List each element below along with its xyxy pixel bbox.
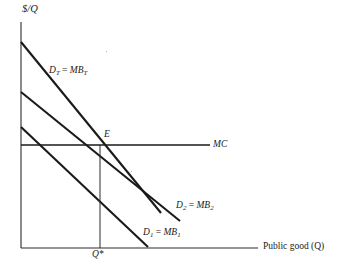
d1-label-sub2: 1: [177, 231, 180, 238]
public-good-efficiency-diagram: [0, 0, 338, 265]
dt-label-mb: MB: [70, 65, 84, 75]
y-axis-title: $/Q: [22, 4, 38, 15]
dt-curve-label: DT = MBT: [49, 66, 87, 76]
d2-label-sub1: 2: [183, 204, 186, 211]
mc-curve-label: MC: [213, 140, 227, 150]
scan-speck: [131, 171, 132, 172]
d2-label-mb: MB: [196, 200, 210, 210]
dt-label-eq: =: [60, 65, 70, 75]
d2-label-sub2: 2: [210, 204, 213, 211]
equilibrium-point-label: E: [104, 130, 110, 140]
dt-label-sub2: T: [84, 69, 88, 76]
d1-label-d: D: [143, 227, 150, 237]
optimal-quantity-label: Q*: [92, 250, 104, 260]
d1-label-sub1: 1: [150, 231, 153, 238]
scan-speck: [106, 51, 107, 52]
dt-label-sub1: T: [56, 69, 60, 76]
d2-label-d: D: [176, 200, 183, 210]
x-axis-title-text: Public good (Q): [263, 241, 324, 251]
d2-label-eq: =: [186, 200, 196, 210]
figure-canvas: $/Q Public good (Q) DT = MBT D2 = MB2 D1…: [0, 0, 338, 265]
dt-label-d: D: [49, 65, 56, 75]
d1-curve-label: D1 = MB1: [143, 228, 181, 238]
d1-label-mb: MB: [163, 227, 177, 237]
d2-curve-label: D2 = MB2: [176, 201, 214, 211]
x-axis-title: Public good (Q): [263, 242, 324, 252]
d1-label-eq: =: [153, 227, 163, 237]
